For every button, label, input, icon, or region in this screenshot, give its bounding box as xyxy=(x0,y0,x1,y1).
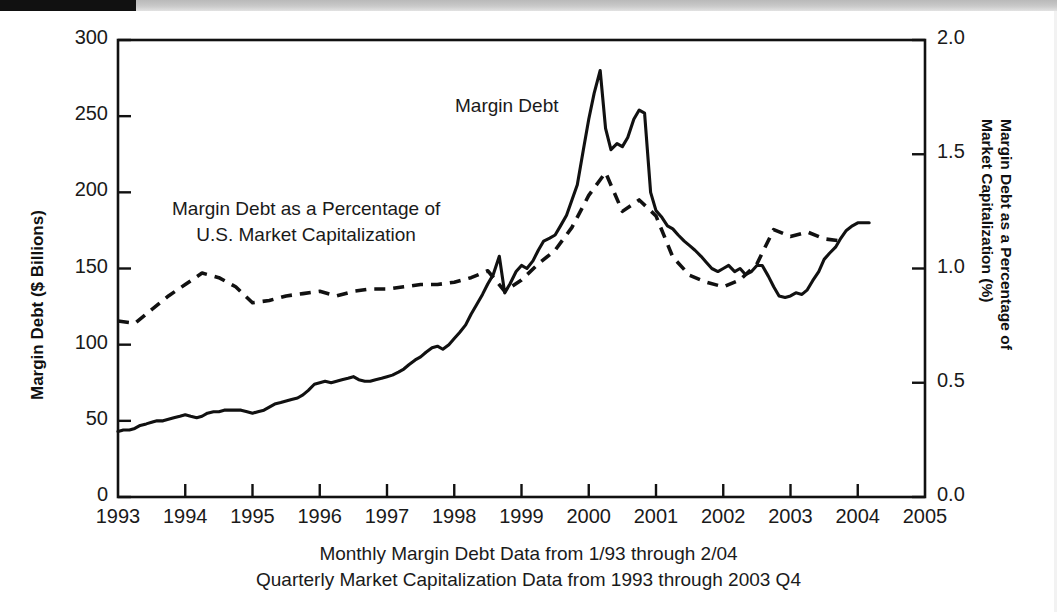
chart-page: Margin Debt ($ Billions) Margin Debt as … xyxy=(0,0,1057,612)
y-axis-left-tick-label: 250 xyxy=(40,102,108,125)
data-series-layer xyxy=(118,70,869,431)
y-axis-left-tick-label: 150 xyxy=(40,255,108,278)
annotation-margin-debt: Margin Debt xyxy=(455,93,559,119)
y-axis-left-tick-label: 50 xyxy=(40,407,108,430)
y-axis-left-tick-label: 300 xyxy=(40,26,108,49)
caption-line-1: Monthly Margin Debt Data from 1/93 throu… xyxy=(0,543,1057,565)
y-axis-right-tick-label: 2.0 xyxy=(937,26,965,49)
y-axis-right-ticks xyxy=(912,40,925,497)
y-axis-right-tick-label: 0.5 xyxy=(937,369,965,392)
y-axis-right-tick-label: 1.0 xyxy=(937,255,965,278)
y-axis-right-title-line2: Market Capitalization (%) xyxy=(978,119,997,350)
x-axis-ticks xyxy=(185,484,858,497)
y-axis-left-tick-label: 0 xyxy=(40,483,108,506)
series-margin-debt xyxy=(118,70,869,431)
annotation-percentage-line2: U.S. Market Capitalization xyxy=(172,222,440,248)
y-axis-left-tick-label: 100 xyxy=(40,331,108,354)
y-axis-left-tick-label: 200 xyxy=(40,178,108,201)
caption-line-2: Quarterly Market Capitalization Data fro… xyxy=(0,569,1057,591)
y-axis-right-title-line1: Margin Debt as a Percentage of xyxy=(997,119,1016,350)
y-axis-right-tick-label: 0.0 xyxy=(937,483,965,506)
x-axis-tick-label: 2005 xyxy=(885,505,965,528)
y-axis-right-title: Margin Debt as a Percentage of Market Ca… xyxy=(978,119,1016,350)
y-axis-right-tick-label: 1.5 xyxy=(937,140,965,163)
annotation-margin-debt-percentage: Margin Debt as a Percentage of U.S. Mark… xyxy=(172,196,440,248)
y-axis-left-title: Margin Debt ($ Billions) xyxy=(28,210,48,400)
annotation-percentage-line1: Margin Debt as a Percentage of xyxy=(172,196,440,222)
